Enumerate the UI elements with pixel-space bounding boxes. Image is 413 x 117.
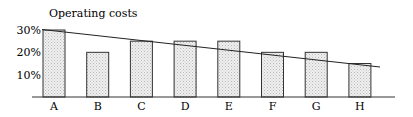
y-tick-20: 20%: [17, 46, 41, 59]
y-axis-ticks: 10%20%30%: [17, 24, 41, 82]
x-label-c: C: [137, 100, 145, 113]
bars: [43, 30, 371, 97]
x-label-e: E: [225, 100, 233, 113]
y-tick-10: 10%: [17, 69, 41, 82]
x-axis-labels: ABCDEFGH: [49, 100, 365, 113]
bar-d: [174, 41, 196, 97]
x-label-g: G: [312, 100, 321, 113]
x-label-b: B: [94, 100, 102, 113]
x-label-d: D: [181, 100, 190, 113]
x-label-f: F: [269, 100, 277, 113]
x-label-h: H: [355, 100, 365, 113]
y-tick-30: 30%: [17, 24, 41, 37]
chart-title: Operating costs: [49, 7, 138, 20]
bar-f: [262, 52, 284, 97]
bar-h: [349, 64, 371, 98]
bar-a: [43, 30, 65, 97]
bar-c: [130, 41, 152, 97]
x-label-a: A: [49, 100, 59, 113]
bar-b: [87, 52, 109, 97]
operating-costs-chart: Operating costs 10%20%30% ABCDEFGH: [0, 0, 413, 117]
